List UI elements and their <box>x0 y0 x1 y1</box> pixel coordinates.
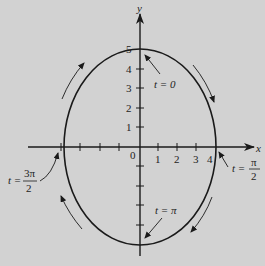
direction-arrow-bottom-left <box>61 196 82 229</box>
pointer-t-pi-over-2 <box>219 152 228 167</box>
label-t-pi: t = π <box>155 204 177 216</box>
y-tick-3: 3 <box>126 82 132 94</box>
y-axis-label: y <box>136 2 142 14</box>
label-t-pi-over-2-lhs: t = <box>232 162 245 174</box>
x-tick-1: 1 <box>155 153 161 165</box>
y-tick-1: 1 <box>126 121 132 133</box>
y-tick-2: 2 <box>126 102 132 114</box>
pointer-t-3pi-over-2 <box>40 153 58 181</box>
pointer-t-pi <box>145 218 162 238</box>
label-t-3pi-over-2-lhs: t = <box>8 174 21 186</box>
ellipse-diagram: x y 0 1 2 3 4 1 2 3 4 5 t = 0 t = π <box>0 0 265 266</box>
y-tick-4: 4 <box>126 63 132 75</box>
label-t-pi-over-2-den: 2 <box>251 170 257 182</box>
direction-arrow-top-left <box>62 63 84 99</box>
x-tick-4: 4 <box>207 153 213 165</box>
label-t0: t = 0 <box>154 78 176 90</box>
pointer-t0 <box>145 55 160 74</box>
x-tick-3: 3 <box>193 153 199 165</box>
direction-arrow-top-right <box>193 65 214 102</box>
origin-label: 0 <box>130 149 136 161</box>
label-t-pi-over-2-num: π <box>251 156 257 168</box>
label-t-3pi-over-2-den: 2 <box>26 182 32 194</box>
label-t-3pi-over-2-num: 3π <box>24 167 36 179</box>
x-tick-2: 2 <box>174 153 180 165</box>
x-axis-label: x <box>255 142 261 154</box>
